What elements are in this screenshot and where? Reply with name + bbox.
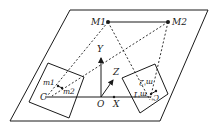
label-X: X <box>112 99 120 109</box>
label-m2-prime: m'2 <box>139 78 153 87</box>
label-Y: Y <box>97 44 104 54</box>
point-x-mark <box>113 96 115 98</box>
label-m2: m2 <box>63 87 75 96</box>
label-m1: m1 <box>43 78 55 87</box>
point-M1 <box>106 20 110 24</box>
label-C-prime: C' <box>151 93 159 102</box>
label-O: O <box>97 99 105 109</box>
stereo-geometry-diagram: M1 M2 Y Z O X C m1 m2 m'1 m'2 C' <box>0 0 220 129</box>
label-M2: M2 <box>171 17 187 27</box>
label-M1: M1 <box>90 17 106 27</box>
label-C: C <box>40 92 47 102</box>
z-axis <box>101 80 113 97</box>
point-M2 <box>166 20 170 24</box>
right-image-plane <box>122 64 168 113</box>
label-Z: Z <box>112 67 120 77</box>
label-m1-prime: m'1 <box>133 90 147 99</box>
